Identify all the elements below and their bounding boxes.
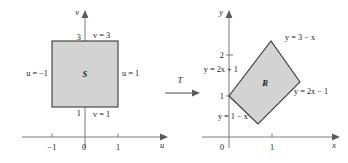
u-axis-label: u [160, 141, 164, 150]
u-axis-arrowhead [160, 134, 168, 141]
edge-label-y-equals-1-minus-x: y = 1 − x [218, 112, 249, 121]
edge-label-u-equals-minus-1: u = −1 [26, 69, 48, 78]
edge-label-v-equals-3: v = 3 [93, 31, 110, 40]
u-tick-label-minus-1: −1 [48, 143, 57, 152]
y-axis-label: y [218, 8, 223, 17]
v-axis-arrowhead [82, 10, 89, 18]
x-axis-label: x [331, 141, 336, 150]
region-r-label: R [261, 78, 268, 88]
edge-label-y-equals-3-minus-x: y = 3 − x [285, 33, 316, 42]
x-tick-label-0: 0 [220, 143, 224, 152]
y-tick-label-2: 2 [220, 51, 224, 60]
edge-label-v-equals-1: v = 1 [93, 110, 110, 119]
figure-canvas: S u = −1 u = 1 v = 3 v = 1 3 1 −1 0 1 u … [0, 0, 348, 163]
y-tick-label-1: 1 [220, 92, 224, 101]
u-tick-label-1: 1 [116, 143, 120, 152]
edge-label-y-equals-2x-minus-1: y = 2x − 1 [294, 87, 328, 96]
v-axis-label: v [75, 8, 79, 17]
u-tick-label-0: 0 [82, 143, 86, 152]
mapping-label-t: T [177, 75, 183, 85]
region-s-label: S [83, 69, 88, 79]
mapping-arrowhead [192, 90, 200, 97]
panel-uv-plane: S u = −1 u = 1 v = 3 v = 1 3 1 −1 0 1 u … [22, 8, 168, 152]
y-axis [226, 10, 233, 148]
edge-label-u-equals-1: u = 1 [122, 69, 139, 78]
u-axis [22, 134, 168, 141]
mapping-arrow-group: T [165, 75, 200, 96]
panel-xy-plane: R y = 3 − x y = 2x + 1 y = 2x − 1 y = 1 … [202, 8, 340, 152]
x-axis [202, 134, 340, 141]
transformation-figure: S u = −1 u = 1 v = 3 v = 1 3 1 −1 0 1 u … [0, 0, 348, 163]
v-tick-label-1: 1 [77, 109, 81, 118]
edge-label-y-equals-2x-plus-1: y = 2x + 1 [204, 65, 238, 74]
x-axis-arrowhead [332, 134, 340, 141]
x-tick-label-1: 1 [270, 143, 274, 152]
y-axis-arrowhead [226, 10, 233, 18]
v-tick-label-3: 3 [77, 33, 81, 42]
